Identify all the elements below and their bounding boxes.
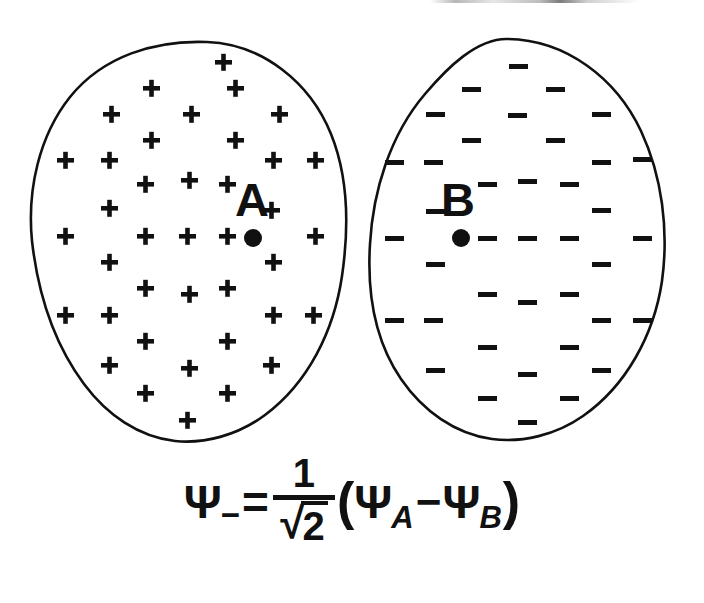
- minus-sign: [592, 318, 611, 323]
- wavefunction-equation: Ψ− = 1 √ 2 ( ΨA − ΨB ): [0, 455, 704, 595]
- radicand-value: 2: [301, 501, 327, 547]
- minus-sign: [560, 236, 579, 241]
- minus-sign: [426, 112, 445, 117]
- minus-sign: [592, 112, 611, 117]
- minus-sign: [592, 208, 611, 213]
- minus-sign: [385, 236, 404, 241]
- sqrt-icon: √: [280, 501, 304, 547]
- close-paren: ): [503, 475, 520, 527]
- minus-sign: [518, 420, 537, 425]
- minus-sign: [462, 138, 481, 143]
- psi-antibonding-symbol: Ψ−: [184, 478, 241, 525]
- minus-sign: [560, 292, 579, 297]
- psi-a-subscript: A: [391, 502, 413, 533]
- minus-sign: [478, 345, 497, 350]
- psi-glyph: Ψ: [184, 478, 222, 525]
- lobe-a-group: A: [31, 42, 346, 442]
- minus-sign: [462, 87, 481, 92]
- minus-sign: [518, 179, 537, 184]
- minus-sign: [518, 372, 537, 377]
- normalization-fraction: 1 √ 2: [273, 453, 335, 547]
- lobe-b-outline: [369, 39, 664, 440]
- square-root-group: √ 2: [280, 501, 327, 547]
- psi-minus-subscript: −: [221, 498, 240, 531]
- minus-sign: [478, 182, 497, 187]
- minus-sign: [385, 318, 404, 323]
- nucleus-dot-b: [452, 229, 470, 247]
- psi-b-term: ΨB: [442, 478, 502, 525]
- nucleus-dot-a: [244, 229, 262, 247]
- minus-sign: [546, 87, 565, 92]
- minus-sign: [478, 292, 497, 297]
- fraction-denominator: √ 2: [280, 500, 327, 547]
- open-paren: (: [337, 475, 354, 527]
- psi-b-subscript: B: [479, 502, 501, 533]
- psi-a-term: ΨA: [354, 478, 414, 525]
- minus-sign: [508, 113, 527, 118]
- minus-sign: [385, 160, 404, 165]
- minus-sign: [592, 262, 611, 267]
- minus-sign: [424, 318, 443, 323]
- fraction-numerator: 1: [293, 453, 315, 495]
- minus-sign: [560, 396, 579, 401]
- minus-sign: [546, 138, 565, 143]
- psi-glyph: Ψ: [354, 478, 392, 525]
- antibonding-orbital-figure: A: [0, 0, 704, 603]
- minus-sign: [633, 157, 652, 162]
- minus-sign: [478, 396, 497, 401]
- atom-label-a: A: [235, 173, 269, 226]
- minus-sign: [509, 64, 528, 69]
- minus-sign: [633, 318, 652, 323]
- minus-sign: [426, 262, 445, 267]
- minus-sign: [424, 160, 443, 165]
- atom-label-b: B: [441, 173, 475, 226]
- minus-sign: [560, 182, 579, 187]
- minus-sign: [478, 236, 497, 241]
- minus-sign: [560, 345, 579, 350]
- equation-row: Ψ− = 1 √ 2 ( ΨA − ΨB ): [184, 455, 520, 549]
- minus-sign: [518, 300, 537, 305]
- equals-sign: =: [242, 479, 269, 525]
- minus-sign: [426, 368, 445, 373]
- minus-operator: −: [416, 480, 442, 524]
- minus-sign: [518, 236, 537, 241]
- minus-sign: [633, 236, 652, 241]
- psi-glyph: Ψ: [442, 478, 480, 525]
- minus-sign: [592, 368, 611, 373]
- lobe-b-group: B: [369, 39, 664, 440]
- minus-sign: [592, 160, 611, 165]
